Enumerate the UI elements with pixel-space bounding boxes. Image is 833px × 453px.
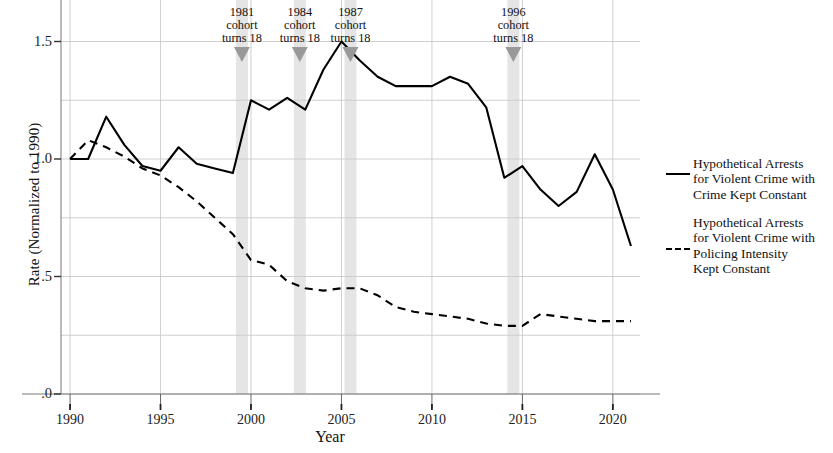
cohort-annotation-1996: 1996cohortturns 18 [476, 6, 550, 46]
x-tick-label-2000: 2000 [221, 412, 281, 428]
chart-figure: Rate (Normalized to 1990) Year 199019952… [0, 0, 833, 453]
x-tick-label-1995: 1995 [131, 412, 191, 428]
legend-label-line: for Violent Crime with [693, 230, 833, 245]
legend-label-line: Policing Intensity [693, 246, 833, 261]
x-tick-label-2005: 2005 [311, 412, 371, 428]
cohort-annotation-1987: 1987cohortturns 18 [314, 6, 388, 46]
legend-label-policing-constant: Hypothetical Arrestsfor Violent Crime wi… [693, 215, 833, 277]
x-tick-label-2010: 2010 [402, 412, 462, 428]
x-axis-label: Year [0, 428, 660, 446]
legend-label-line: Kept Constant [693, 261, 833, 276]
x-tick-label-2020: 2020 [583, 412, 643, 428]
legend-swatch-crime-constant [666, 173, 690, 175]
y-tick-label-p5: .5 [6, 268, 52, 285]
legend-label-line: Hypothetical Arrests [693, 156, 833, 171]
legend-label-line: Hypothetical Arrests [693, 215, 833, 230]
legend-label-line: for Violent Crime with [693, 171, 833, 186]
y-tick-label-1p0: 1.0 [6, 150, 52, 167]
x-tick-label-2015: 2015 [492, 412, 552, 428]
cohort-annotation-line: turns 18 [314, 32, 388, 45]
legend-label-crime-constant: Hypothetical Arrestsfor Violent Crime wi… [693, 156, 833, 202]
y-tick-label-p0: .0 [6, 385, 52, 402]
y-axis-label: Rate (Normalized to 1990) [26, 75, 43, 335]
legend-swatch-policing-constant [666, 248, 690, 250]
cohort-annotation-line: turns 18 [476, 32, 550, 45]
legend-label-line: Crime Kept Constant [693, 187, 833, 202]
y-tick-label-1p5: 1.5 [6, 33, 52, 50]
x-tick-label-1990: 1990 [40, 412, 100, 428]
